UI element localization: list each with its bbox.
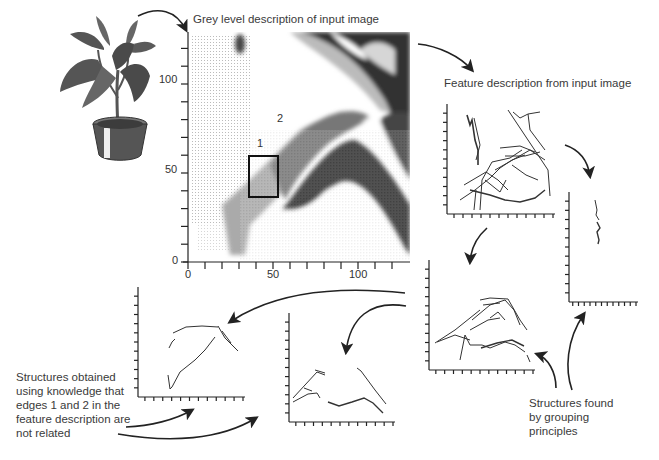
separated-structures-chart <box>285 313 395 426</box>
y-tick-label-100: 100 <box>159 73 177 85</box>
y-tick-label-0: 0 <box>172 254 178 266</box>
grey-level-image <box>190 32 410 260</box>
arrow-knowledge-to-separated <box>118 418 256 439</box>
arrow-knowledge-to-arch <box>126 410 192 427</box>
edge-label-2: 2 <box>277 112 283 124</box>
arrow-to-feature <box>418 44 472 70</box>
arrow-to-separated <box>346 305 406 352</box>
arrow-grouping-to-isolated <box>568 314 584 390</box>
arrow-to-isolated <box>565 145 590 176</box>
knowledge-text-line-2: using knowledge that <box>16 384 124 398</box>
arrow-to-grey-image <box>138 11 186 30</box>
arrow-to-grouped <box>470 228 487 262</box>
grey-level-title: Grey level description of input image <box>193 12 379 26</box>
feature-title: Feature description from input image <box>444 76 631 90</box>
grouping-text-line-3: principles <box>529 424 578 438</box>
knowledge-text-line-4: feature description are <box>16 412 130 426</box>
knowledge-text-line-3: edges 1 and 2 in the <box>16 398 120 412</box>
x-tick-label-0: 0 <box>185 268 191 280</box>
x-tick-label-50: 50 <box>267 268 279 280</box>
grouping-text-line-2: by grouping <box>529 410 589 424</box>
grouped-structures-chart <box>425 260 535 374</box>
knowledge-text-line-1: Structures obtained <box>16 370 116 384</box>
plant-image <box>60 16 156 160</box>
y-tick-label-50: 50 <box>165 163 177 175</box>
diagram-stage: Grey level description of input image Fe… <box>0 0 659 460</box>
isolated-structure-chart <box>565 192 638 306</box>
edge-label-1: 1 <box>257 137 263 149</box>
feature-chart <box>443 104 555 218</box>
feature-segments <box>460 110 550 210</box>
grouping-text-line-1: Structures found <box>529 396 613 410</box>
x-tick-label-100: 100 <box>349 268 367 280</box>
knowledge-text-line-5: not related <box>16 426 70 440</box>
arch-structure-chart <box>134 287 245 401</box>
arrow-grouping-to-grouped <box>537 354 556 388</box>
